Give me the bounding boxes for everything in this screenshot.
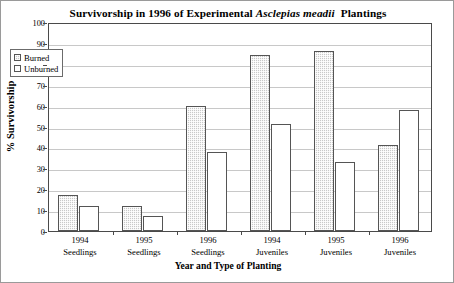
- y-tick-label: 40: [21, 144, 45, 153]
- y-tickmark: [43, 190, 47, 191]
- x-axis-title: Year and Type of Planting: [1, 260, 454, 271]
- legend-label-unburned: Unburned: [24, 64, 58, 74]
- y-tick-label: 0: [21, 228, 45, 237]
- legend-item-burned: Burned: [14, 52, 58, 63]
- bar-burned-1995-seedlings: [122, 206, 142, 231]
- y-tickmark: [43, 23, 47, 24]
- gridline: [49, 66, 431, 67]
- x-category-type: Juveniles: [368, 247, 432, 259]
- x-category-year: 1995: [327, 235, 344, 245]
- y-tickmark: [43, 232, 47, 233]
- chart-title: Survivorship in 1996 of Experimental Asc…: [1, 7, 454, 19]
- y-tickmark: [43, 148, 47, 149]
- chart-title-before: Survivorship in 1996 of Experimental: [70, 7, 256, 19]
- chart-title-italic: Asclepias meadii: [256, 7, 335, 19]
- legend-swatch-unburned-icon: [14, 65, 21, 72]
- y-tick-label: 50: [21, 123, 45, 132]
- legend-label-burned: Burned: [24, 53, 49, 63]
- x-category-year: 1994: [263, 235, 280, 245]
- bar-burned-1996-juveniles: [378, 145, 398, 231]
- gridline: [49, 108, 431, 109]
- gridline: [49, 87, 431, 88]
- plot-area: [48, 23, 432, 232]
- x-category-label: 1996Juveniles: [368, 235, 432, 258]
- y-tickmark: [43, 86, 47, 87]
- x-category-year: 1996: [199, 235, 216, 245]
- bar-burned-1994-seedlings: [58, 195, 78, 231]
- y-tickmark: [43, 128, 47, 129]
- x-category-year: 1996: [391, 235, 408, 245]
- x-category-year: 1995: [135, 235, 152, 245]
- gridline: [49, 212, 431, 213]
- y-tickmark: [43, 169, 47, 170]
- y-tick-label: 100: [21, 19, 45, 28]
- x-axis-category-labels: 1994Seedlings1995Seedlings1996Seedlings1…: [48, 235, 432, 263]
- gridline: [49, 191, 431, 192]
- bar-unburned-1996-seedlings: [207, 152, 227, 231]
- y-tick-label: 10: [21, 207, 45, 216]
- gridline: [49, 170, 431, 171]
- x-category-type: Juveniles: [240, 247, 304, 259]
- bar-burned-1994-juveniles: [250, 55, 270, 231]
- chart-legend: Burned Unburned: [10, 49, 63, 77]
- x-category-type: Seedlings: [176, 247, 240, 259]
- bar-unburned-1995-juveniles: [335, 162, 355, 231]
- bar-unburned-1994-juveniles: [271, 124, 291, 231]
- bar-burned-1995-juveniles: [314, 51, 334, 231]
- y-tick-label: 70: [21, 81, 45, 90]
- bar-unburned-1995-seedlings: [143, 216, 163, 231]
- bar-burned-1996-seedlings: [186, 106, 206, 231]
- x-category-label: 1994Seedlings: [48, 235, 112, 258]
- chart-title-after: Plantings: [341, 7, 387, 19]
- y-tickmark: [43, 44, 47, 45]
- x-category-label: 1995Juveniles: [304, 235, 368, 258]
- bar-unburned-1996-juveniles: [399, 110, 419, 231]
- x-category-year: 1994: [71, 235, 88, 245]
- gridline: [49, 45, 431, 46]
- x-category-type: Juveniles: [304, 247, 368, 259]
- y-tick-label: 60: [21, 102, 45, 111]
- y-tick-label: 90: [21, 39, 45, 48]
- x-category-label: 1996Seedlings: [176, 235, 240, 258]
- gridline: [49, 149, 431, 150]
- y-axis-title: % Survivorship: [3, 1, 19, 232]
- legend-item-unburned: Unburned: [14, 63, 58, 74]
- y-tick-label: 30: [21, 165, 45, 174]
- y-tickmark: [43, 107, 47, 108]
- x-category-type: Seedlings: [48, 247, 112, 259]
- x-category-label: 1995Seedlings: [112, 235, 176, 258]
- x-category-type: Seedlings: [112, 247, 176, 259]
- y-tickmark: [43, 211, 47, 212]
- y-tickmark: [43, 65, 47, 66]
- gridline: [49, 129, 431, 130]
- x-category-label: 1994Juveniles: [240, 235, 304, 258]
- legend-swatch-burned-icon: [14, 54, 21, 61]
- y-tick-label: 20: [21, 186, 45, 195]
- bar-unburned-1994-seedlings: [79, 206, 99, 231]
- chart-figure: Survivorship in 1996 of Experimental Asc…: [0, 0, 454, 283]
